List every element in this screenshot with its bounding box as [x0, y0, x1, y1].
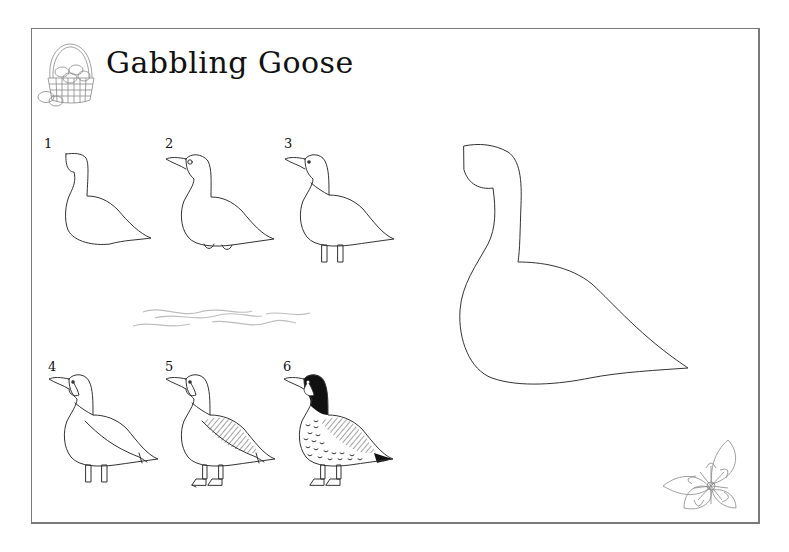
- goose-step-4: [49, 375, 158, 482]
- goose-step-1: [66, 153, 151, 244]
- goose-step-5: [166, 375, 275, 487]
- water-waves: [133, 310, 310, 326]
- flower-icon: [663, 440, 736, 509]
- goose-step-3: [285, 155, 394, 262]
- goose-step-6: [284, 375, 393, 485]
- large-goose-outline: [460, 144, 688, 384]
- goose-step-2: [166, 155, 274, 250]
